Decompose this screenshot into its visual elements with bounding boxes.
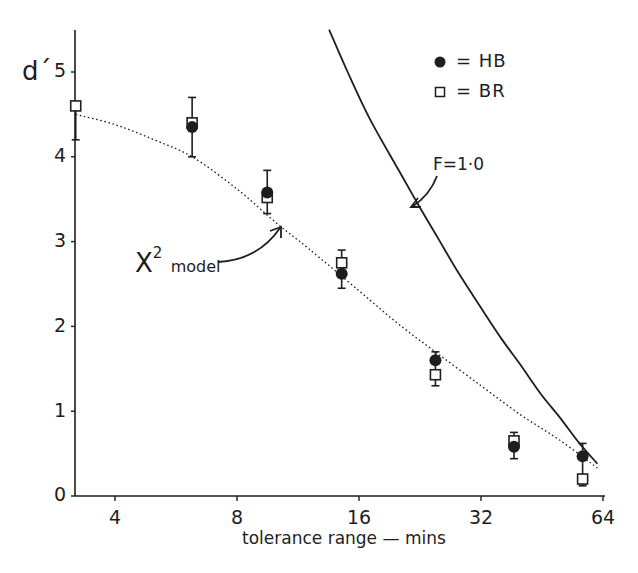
x-tick-label-64: 64 xyxy=(583,506,623,528)
br-point-square xyxy=(71,101,81,111)
hb-point-circle xyxy=(508,441,520,453)
legend-br-marker xyxy=(436,88,445,97)
x-tick-label-32: 32 xyxy=(461,506,501,528)
chi-model-annotation: X2 model xyxy=(135,244,220,278)
chi-superscript: 2 xyxy=(153,244,163,262)
error-bars xyxy=(72,97,587,485)
y-tick-label-0: 0 xyxy=(42,483,66,505)
axis-ticks xyxy=(71,72,603,501)
chart-canvas xyxy=(0,0,638,573)
hb-point-circle xyxy=(336,268,348,280)
y-tick-label-2: 2 xyxy=(42,314,66,336)
hb-point-circle xyxy=(577,450,589,462)
hb-point-circle xyxy=(186,121,198,133)
x-tick-label-16: 16 xyxy=(339,506,379,528)
br-point-square xyxy=(430,370,440,380)
annotation-arrows xyxy=(218,176,437,262)
chi-symbol: X xyxy=(135,248,153,278)
br-point-square xyxy=(578,474,588,484)
x-tick-label-8: 8 xyxy=(217,506,257,528)
legend-br-label: = BR xyxy=(456,80,506,101)
hb-point-circle xyxy=(429,354,441,366)
y-tick-label-1: 1 xyxy=(42,399,66,421)
x-axis-title: tolerance range — mins xyxy=(242,528,446,548)
y-tick-label-3: 3 xyxy=(42,229,66,251)
chi-annotation-arrow xyxy=(218,228,280,262)
legend-hb-marker xyxy=(435,57,446,68)
y-axis-title: d´ xyxy=(22,56,52,86)
chi-square-model-curve xyxy=(76,114,598,468)
data-points xyxy=(71,101,589,484)
br-point-square xyxy=(337,258,347,268)
x-tick-label-4: 4 xyxy=(95,506,135,528)
hb-point-circle xyxy=(261,186,273,198)
f-curve-annotation: F=1·0 xyxy=(433,154,484,174)
y-tick-label-4: 4 xyxy=(42,144,66,166)
chi-model-word: model xyxy=(171,257,221,276)
legend xyxy=(435,57,446,97)
legend-hb-label: = HB xyxy=(456,50,507,71)
